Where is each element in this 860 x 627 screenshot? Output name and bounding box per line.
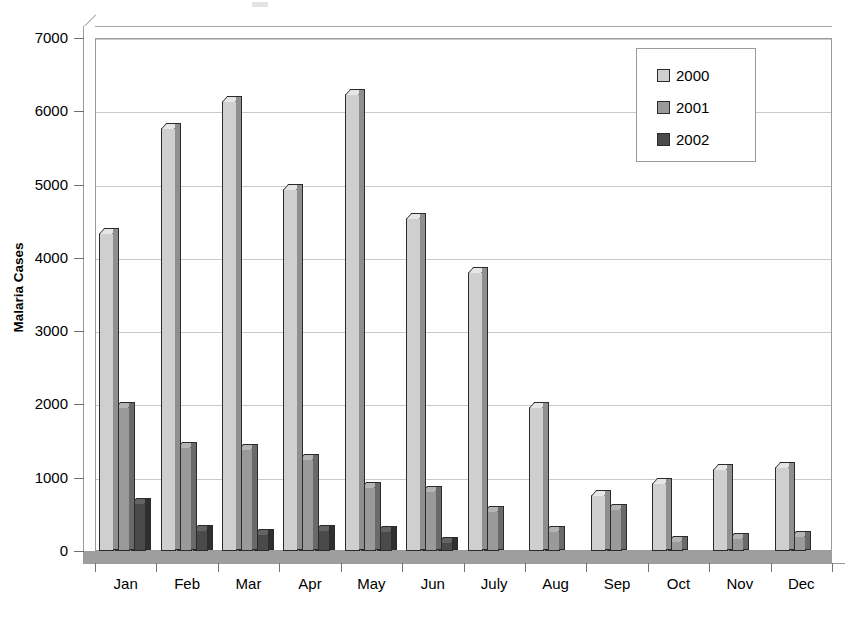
bar-side-face bbox=[605, 490, 611, 550]
legend-item-2002: 2002 bbox=[657, 131, 709, 148]
bar-side-face bbox=[191, 442, 197, 550]
x-tick-10 bbox=[709, 563, 710, 572]
bar-mar-2000 bbox=[222, 101, 237, 551]
x-tick-1 bbox=[156, 563, 157, 572]
x-tick-3 bbox=[279, 563, 280, 572]
bar-side-face bbox=[145, 498, 151, 550]
x-tick-9 bbox=[648, 563, 649, 572]
legend-swatch-2001 bbox=[657, 101, 670, 114]
x-axis-label-mar: Mar bbox=[214, 575, 284, 592]
bar-dec-2000 bbox=[775, 467, 790, 551]
bar-side-face bbox=[252, 444, 258, 550]
x-axis-label-aug: Aug bbox=[521, 575, 591, 592]
bar-jan-2000 bbox=[99, 233, 114, 551]
x-axis-label-dec: Dec bbox=[766, 575, 836, 592]
bar-sep-2000 bbox=[591, 495, 606, 551]
x-tick-6 bbox=[464, 563, 465, 572]
bar-side-face bbox=[391, 526, 397, 550]
x-tick-4 bbox=[341, 563, 342, 572]
x-tick-8 bbox=[586, 563, 587, 572]
bar-side-face bbox=[727, 464, 733, 550]
bar-side-face bbox=[482, 267, 488, 550]
bar-side-face bbox=[805, 531, 811, 550]
bar-may-2000 bbox=[345, 94, 360, 551]
x-axis-label-oct: Oct bbox=[643, 575, 713, 592]
x-tick-5 bbox=[402, 563, 403, 572]
bar-oct-2000 bbox=[652, 483, 667, 551]
x-tick-7 bbox=[525, 563, 526, 572]
bar-side-face bbox=[452, 537, 458, 550]
legend-label-2001: 2001 bbox=[676, 99, 709, 116]
bar-side-face bbox=[436, 486, 442, 550]
x-tick-0 bbox=[95, 563, 96, 572]
bar-side-face bbox=[236, 96, 242, 550]
x-axis-label-apr: Apr bbox=[275, 575, 345, 592]
bar-side-face bbox=[329, 525, 335, 550]
bar-side-face bbox=[543, 402, 549, 550]
bar-side-face bbox=[113, 228, 119, 550]
bar-side-face bbox=[375, 482, 381, 550]
bar-side-face bbox=[789, 462, 795, 550]
x-axis-label-jan: Jan bbox=[91, 575, 161, 592]
bar-feb-2000 bbox=[161, 128, 176, 551]
bar-side-face bbox=[743, 533, 749, 550]
x-axis-label-nov: Nov bbox=[705, 575, 775, 592]
bar-side-face bbox=[268, 529, 274, 550]
bar-side-face bbox=[498, 506, 504, 550]
bar-side-face bbox=[666, 478, 672, 550]
bar-nov-2000 bbox=[713, 469, 728, 551]
malaria-cases-bar-chart: 01000200030004000500060007000 Malaria Ca… bbox=[0, 0, 860, 627]
bar-side-face bbox=[682, 536, 688, 550]
x-axis-label-feb: Feb bbox=[152, 575, 222, 592]
bar-aug-2000 bbox=[529, 407, 544, 551]
legend: 2000 2001 2002 bbox=[636, 48, 756, 162]
x-axis-label-july: July bbox=[459, 575, 529, 592]
bar-side-face bbox=[420, 213, 426, 550]
x-axis-label-sep: Sep bbox=[582, 575, 652, 592]
bar-jun-2000 bbox=[406, 218, 421, 551]
bar-side-face bbox=[559, 526, 565, 550]
x-tick-12 bbox=[832, 563, 833, 572]
legend-item-2001: 2001 bbox=[657, 99, 709, 116]
legend-swatch-2000 bbox=[657, 69, 670, 82]
bar-side-face bbox=[129, 402, 135, 550]
x-tick-2 bbox=[218, 563, 219, 572]
bar-apr-2000 bbox=[283, 189, 298, 551]
bar-side-face bbox=[621, 504, 627, 550]
bar-side-face bbox=[207, 525, 213, 550]
legend-label-2000: 2000 bbox=[676, 67, 709, 84]
x-axis-label-jun: Jun bbox=[398, 575, 468, 592]
legend-swatch-2002 bbox=[657, 133, 670, 146]
bar-side-face bbox=[359, 89, 365, 550]
bar-july-2000 bbox=[468, 272, 483, 551]
bar-side-face bbox=[297, 184, 303, 550]
legend-item-2000: 2000 bbox=[657, 67, 709, 84]
legend-label-2002: 2002 bbox=[676, 131, 709, 148]
x-tick-11 bbox=[771, 563, 772, 572]
x-axis-label-may: May bbox=[336, 575, 406, 592]
bar-side-face bbox=[175, 123, 181, 550]
bar-side-face bbox=[313, 454, 319, 550]
